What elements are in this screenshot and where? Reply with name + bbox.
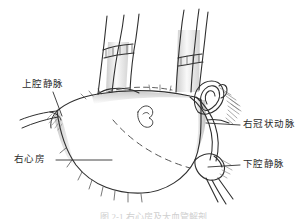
label-inferior-vena-cava: 下腔静脉	[243, 159, 285, 170]
figure-caption: 图 2-1 右心房及大血管解剖	[0, 210, 307, 219]
label-right-atrium: 右心房	[14, 154, 45, 165]
surface-nodule	[138, 106, 153, 127]
anatomy-illustration	[0, 0, 307, 219]
inferior-margin-strokes	[60, 148, 142, 202]
right-atrium-outline	[57, 91, 201, 193]
leader-lines	[53, 92, 240, 167]
leader-line-rca	[206, 123, 240, 125]
dashed-internal-border	[113, 120, 190, 168]
label-right-coronary-artery: 右冠状动脉	[243, 119, 295, 130]
figure-page: 上腔静脉 右心房 右冠状动脉 下腔静脉 图 2-1 右心房及大血管解剖	[0, 0, 307, 219]
inferior-vena-cava	[195, 154, 233, 204]
label-superior-vena-cava: 上腔静脉	[22, 79, 64, 90]
ivc-hatching	[220, 160, 232, 178]
epicardial-fat-hatching	[220, 88, 241, 124]
